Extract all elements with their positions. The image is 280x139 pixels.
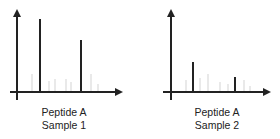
chart-2-label-line2: Sample 2 bbox=[172, 119, 262, 132]
chart-1-label: Peptide A Sample 1 bbox=[19, 106, 109, 132]
chart-sample-2 bbox=[163, 13, 267, 100]
chart-2-label: Peptide A Sample 2 bbox=[172, 106, 262, 132]
chart-1-label-line1: Peptide A bbox=[19, 106, 109, 119]
chart-2-label-line1: Peptide A bbox=[172, 106, 262, 119]
chart-sample-1 bbox=[10, 13, 119, 100]
chart-1-label-line2: Sample 1 bbox=[19, 119, 109, 132]
